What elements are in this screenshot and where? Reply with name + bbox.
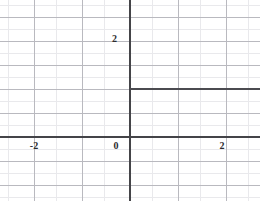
x-axis-tick-label-0: -2 bbox=[22, 141, 46, 151]
minor-gridline-horizontal bbox=[0, 29, 260, 30]
minor-gridline-horizontal bbox=[0, 173, 260, 174]
major-gridline-horizontal bbox=[0, 161, 260, 162]
step-function-segment-upper bbox=[130, 88, 260, 90]
axes-layer bbox=[0, 0, 260, 201]
coordinate-plane-figure: -2022 bbox=[0, 0, 260, 201]
major-gridline-horizontal bbox=[0, 65, 260, 66]
x-axis-tick-label-2: 2 bbox=[210, 141, 234, 151]
minor-gridlines bbox=[0, 0, 260, 201]
x-axis bbox=[0, 136, 260, 138]
minor-gridline-vertical bbox=[8, 0, 9, 201]
y-axis bbox=[129, 0, 131, 201]
minor-gridline-horizontal bbox=[0, 149, 260, 150]
minor-gridline-vertical bbox=[200, 0, 201, 201]
tick-labels-layer: -2022 bbox=[0, 0, 260, 201]
function-plot-layer bbox=[0, 0, 260, 201]
major-gridline-horizontal bbox=[0, 185, 260, 186]
minor-gridline-vertical bbox=[56, 0, 57, 201]
minor-gridline-horizontal bbox=[0, 197, 260, 198]
minor-gridline-horizontal bbox=[0, 5, 260, 6]
major-gridline-vertical bbox=[34, 0, 35, 201]
minor-gridline-vertical bbox=[152, 0, 153, 201]
minor-gridline-horizontal bbox=[0, 53, 260, 54]
major-gridline-vertical bbox=[82, 0, 83, 201]
minor-gridline-horizontal bbox=[0, 125, 260, 126]
minor-gridline-horizontal bbox=[0, 77, 260, 78]
minor-gridline-horizontal bbox=[0, 101, 260, 102]
major-gridline-horizontal bbox=[0, 89, 260, 90]
major-gridline-horizontal bbox=[0, 113, 260, 114]
major-gridline-horizontal bbox=[0, 41, 260, 42]
minor-gridline-vertical bbox=[248, 0, 249, 201]
major-gridline-vertical bbox=[226, 0, 227, 201]
major-gridline-horizontal bbox=[0, 17, 260, 18]
major-gridline-vertical bbox=[178, 0, 179, 201]
x-axis-tick-label-1: 0 bbox=[104, 141, 128, 151]
y-axis-tick-label-0: 2 bbox=[95, 34, 117, 44]
major-gridlines bbox=[0, 0, 260, 201]
minor-gridline-vertical bbox=[104, 0, 105, 201]
